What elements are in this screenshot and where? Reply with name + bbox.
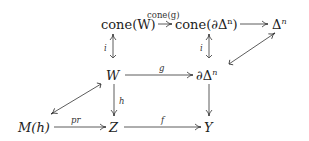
node-ddelta: ∂Δn [196, 69, 217, 82]
label-pr: pr [71, 116, 81, 125]
arrow-w-to-mh [51, 84, 101, 114]
node-cone-ddelta: cone(∂Δn) [175, 18, 238, 31]
node-w: W [106, 69, 119, 82]
label-i-right: i [200, 44, 203, 53]
label-g: g [159, 64, 164, 73]
node-mh: M(h) [18, 121, 50, 134]
label-f: f [161, 116, 164, 125]
node-y: Y [204, 121, 213, 134]
label-cone-g: cone(g) [147, 11, 179, 20]
label-i-left: i [104, 44, 107, 53]
arrow-ddelta-to-delta [229, 33, 275, 64]
label-h: h [119, 97, 124, 106]
node-z: Z [109, 121, 118, 134]
node-delta: Δn [272, 18, 287, 31]
